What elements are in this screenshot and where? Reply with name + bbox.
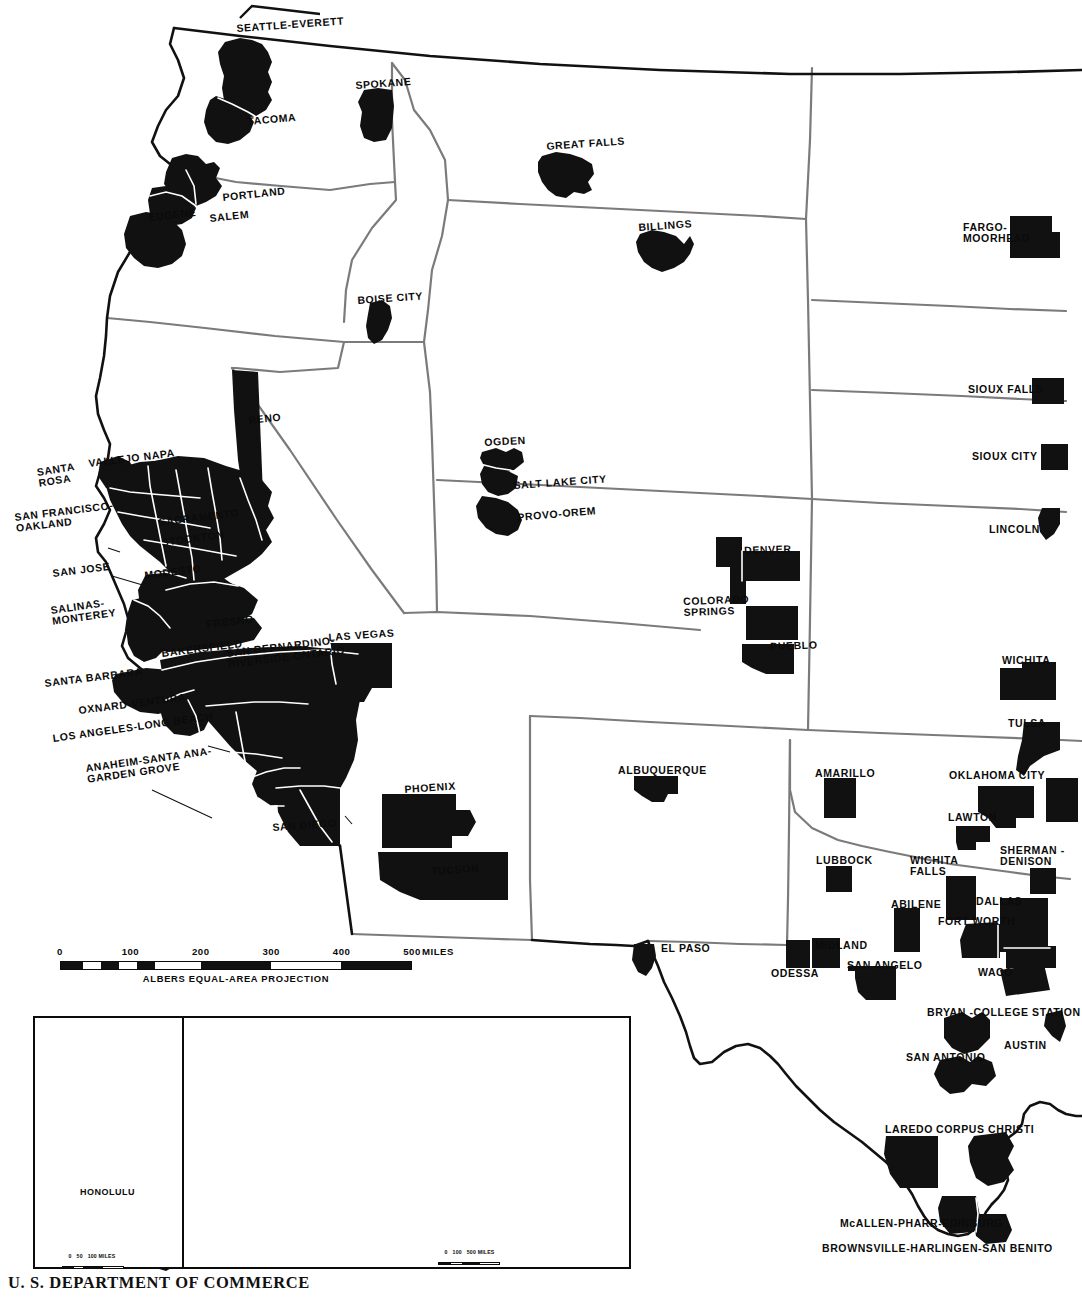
metro-label-wichita: WICHITA [1002,655,1050,666]
metro-label-albuquerque: ALBUQUERQUE [618,765,707,776]
metro-label-sherman-denison: SHERMAN - DENISON [1000,845,1065,867]
scale-bar-graphic [60,961,412,970]
hawaii-scale-bar [62,1266,124,1269]
metro-label-colorado-springs: COLORADO SPRINGS [683,594,750,618]
metro-label-tulsa: TULSA [1008,718,1046,729]
metro-label-lincoln: LINCOLN [989,524,1040,535]
honolulu-label: HONOLULU [80,1187,135,1197]
metro-label-lubbock: LUBBOCK [816,855,873,866]
metro-label-sioux-falls: SIOUX FALLS [968,384,1043,395]
metro-label-corpus-christi: CORPUS CHRISTI [936,1124,1034,1135]
metro-label-austin: AUSTIN [1004,1040,1047,1051]
scale-tick-labels: 0100200300400500MILES [60,946,440,959]
metro-label-fargo-moorhead: FARGO- MOORHEAD [963,222,1030,244]
scale-tick-300: 300 [262,946,280,957]
scale-tick-0: 0 [57,946,63,957]
metro-label-fort-worth: FORT WORTH [938,916,1015,927]
metro-label-midland: MIDLAND [815,940,868,951]
metro-label-pueblo: PUEBLO [770,639,818,652]
metro-label-laredo: LAREDO [885,1124,933,1135]
scale-bar: 0100200300400500MILES ALBERS EQUAL-AREA … [60,946,440,988]
projection-note: ALBERS EQUAL-AREA PROJECTION [60,973,412,984]
metro-label-ogden: OGDEN [484,435,526,448]
scale-tick-500: 500 [403,946,421,957]
alaska-scale-text: 0 100 500 MILES [445,1249,495,1255]
map-figure: SEATTLE-EVERETTTACOMASPOKANEPORTLANDSALE… [0,0,1082,1307]
metro-label-bryan-college-station: BRYAN -COLLEGE STATION [927,1007,1081,1018]
metro-label-dallas: DALLAS [976,896,1022,907]
metro-label-lawton: LAWTON [948,812,997,823]
hawaii-scale-text: 0 50 100 MILES [69,1253,116,1259]
scale-tick-400: 400 [333,946,351,957]
metro-label-oklahoma-city: OKLAHOMA CITY [949,770,1045,781]
metro-label-odessa: ODESSA [771,968,819,979]
metro-label-san-angelo: SAN ANGELO [847,960,923,971]
metro-label-abilene: ABILENE [891,899,941,910]
metro-label-waco: WACO [978,967,1013,978]
metro-label-denver: DENVER [744,543,792,556]
metro-label-san-antonio: SAN ANTONIO [906,1052,986,1063]
scale-tick-200: 200 [192,946,210,957]
alaska-scale-bar [438,1262,500,1265]
department-of-commerce-credit: U. S. DEPARTMENT OF COMMERCE [8,1273,310,1293]
metro-label-brownsville-harlingen-san-benito: BROWNSVILLE-HARLINGEN-SAN BENITO [822,1243,1053,1254]
metro-label-sioux-city: SIOUX CITY [972,451,1038,462]
metro-label-mcallen-pharr-edinburg: McALLEN-PHARR-EDINBURG [840,1218,1003,1229]
metro-label-el-paso: EL PASO [661,943,710,954]
metro-label-amarillo: AMARILLO [815,768,875,779]
alaska-inset-scale: 0 100 500 MILES [438,1243,500,1277]
metro-label-wichita-falls: WICHITA FALLS [910,855,958,877]
scale-tick-100: 100 [122,946,140,957]
scale-unit-label: MILES [422,946,454,957]
inset-divider [182,1016,184,1269]
inset-frame [33,1016,631,1269]
